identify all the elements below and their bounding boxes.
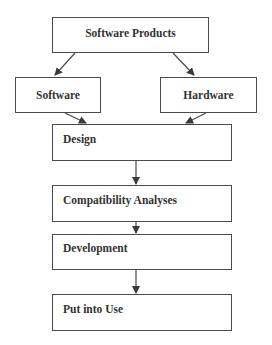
node-design: Design xyxy=(52,124,232,161)
arrow-software-to-design xyxy=(65,113,86,123)
node-hardware: Hardware xyxy=(160,77,257,113)
node-development: Development xyxy=(52,234,232,270)
node-put-into-use: Put into Use xyxy=(52,294,232,331)
node-label: Compatibility Analyses xyxy=(63,194,177,206)
node-label: Software xyxy=(36,89,80,101)
node-label: Software Products xyxy=(85,27,176,39)
node-compatibility-analyses: Compatibility Analyses xyxy=(52,185,232,222)
flowchart-diagram: Software Products Software Hardware Desi… xyxy=(0,0,272,345)
node-software-products: Software Products xyxy=(52,17,209,53)
node-label: Hardware xyxy=(183,89,233,101)
arrow-products-to-hardware xyxy=(173,53,194,75)
node-label: Put into Use xyxy=(63,303,123,315)
arrow-products-to-software xyxy=(55,53,75,75)
node-label: Development xyxy=(63,242,128,254)
node-software: Software xyxy=(15,77,101,113)
arrow-hardware-to-design xyxy=(186,113,206,123)
node-label: Design xyxy=(63,133,96,145)
